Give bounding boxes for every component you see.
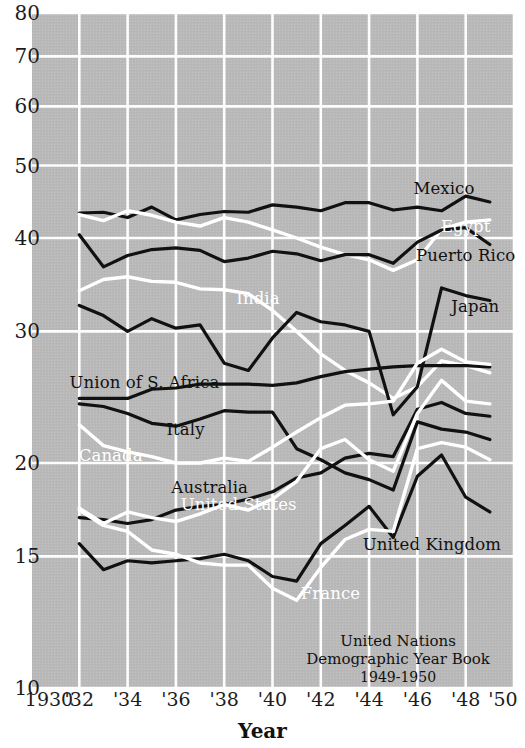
y-axis-tick-30: 30 (0, 321, 40, 341)
x-axis-tick-48: '48 (451, 690, 480, 709)
source-note: United NationsDemographic Year Book1949-… (306, 632, 490, 687)
series-label-united-kingdom: United Kingdom (363, 534, 501, 553)
x-axis-tick-38: '38 (209, 690, 238, 709)
y-axis-tick-70: 70 (0, 46, 40, 66)
x-axis-tick-34: '34 (113, 690, 142, 709)
series-label-united-states: United States (181, 495, 297, 514)
chart-root: 8070605040302015101930'32'34'36'38'40'42… (0, 0, 525, 748)
y-axis-tick-40: 40 (0, 228, 40, 248)
series-label-france: France (301, 583, 360, 602)
y-axis-tick-50: 50 (0, 156, 40, 176)
x-axis-tick-40: '40 (258, 690, 287, 709)
y-axis-tick-60: 60 (0, 96, 40, 116)
series-label-australia: Australia (171, 477, 248, 496)
x-axis-tick-50: '50 (488, 690, 517, 709)
series-label-japan: Japan (451, 297, 499, 316)
series-label-mexico: Mexico (413, 179, 474, 198)
y-axis-tick-80: 80 (0, 3, 40, 23)
series-label-egypt: Egypt (441, 217, 491, 236)
x-axis-tick-36: '36 (161, 690, 190, 709)
series-label-italy: Italy (167, 420, 205, 439)
source-note-line3: 1949-1950 (306, 669, 490, 687)
source-note-line1: United Nations (306, 632, 490, 651)
series-label-india: India (236, 289, 279, 308)
x-axis-tick-44: '44 (354, 690, 383, 709)
x-axis-tick-42: '42 (306, 690, 335, 709)
x-axis-tick-32: '32 (65, 690, 94, 709)
y-axis-tick-15: 15 (0, 546, 40, 566)
series-label-puerto-rico: Puerto Rico (416, 245, 515, 264)
source-note-line2: Demographic Year Book (306, 650, 490, 669)
x-axis-tick-46: '46 (403, 690, 432, 709)
series-label-canada: Canada (79, 445, 143, 464)
series-label-union-of-s-africa: Union of S. Africa (70, 372, 220, 391)
y-axis-tick-20: 20 (0, 453, 40, 473)
x-axis-title: Year (0, 719, 525, 743)
